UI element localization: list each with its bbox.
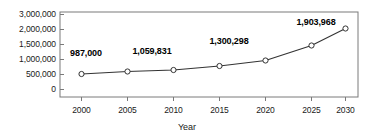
data-point-marker	[263, 58, 268, 63]
data-point-marker	[125, 69, 130, 74]
x-axis-tick-label: 2005	[118, 106, 137, 115]
x-axis-tick-label: 2015	[210, 106, 229, 115]
x-axis-title: Year	[0, 122, 374, 132]
data-point-marker	[343, 26, 348, 31]
x-axis-tick-label: 2025	[302, 106, 321, 115]
data-point-marker	[79, 71, 84, 76]
line-chart-figure: 3,000,000 2,000,000 1,500,000 1,000,000 …	[0, 0, 374, 138]
data-point-marker	[217, 63, 222, 68]
x-axis-tick-label: 2020	[256, 106, 275, 115]
data-value-label: 987,000	[70, 48, 102, 58]
data-point-marker	[309, 43, 314, 48]
data-value-label: 1,300,298	[209, 36, 248, 46]
x-axis-tick-label: 2030	[336, 106, 355, 115]
y-axis-ticks	[60, 15, 64, 90]
x-axis-ticks	[82, 97, 346, 101]
x-axis-tick-label: 2000	[72, 106, 91, 115]
x-axis-tick-label: 2010	[164, 106, 183, 115]
data-value-label: 1,903,968	[296, 17, 335, 27]
data-markers	[79, 26, 348, 77]
data-point-marker	[171, 67, 176, 72]
data-value-label: 1,059,831	[132, 46, 171, 56]
